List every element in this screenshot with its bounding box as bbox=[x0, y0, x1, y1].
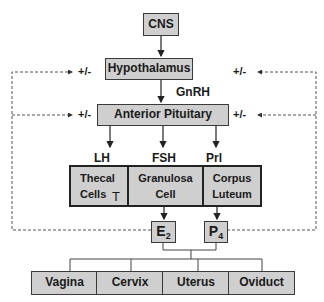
cns-label: CNS bbox=[148, 18, 173, 32]
anterior-pituitary-label: Anterior Pituitary bbox=[114, 108, 212, 122]
target-uterus-box: Uterus bbox=[162, 271, 230, 295]
granulosa-label-line1: Granulosa bbox=[138, 172, 192, 185]
lh-label: LH bbox=[94, 151, 110, 165]
target-uterus-label: Uterus bbox=[177, 276, 215, 290]
target-oviduct-box: Oviduct bbox=[228, 271, 295, 295]
target-oviduct-label: Oviduct bbox=[239, 276, 284, 290]
anterior-pituitary-box: Anterior Pituitary bbox=[97, 104, 229, 126]
feedback-label-hypothalamus-left: +/- bbox=[78, 65, 91, 77]
cns-box: CNS bbox=[143, 13, 179, 36]
fsh-label: FSH bbox=[152, 151, 176, 165]
e2-label: E2 bbox=[156, 223, 170, 241]
corpus-label-line2: Luteum bbox=[212, 188, 252, 201]
target-cervix-label: Cervix bbox=[112, 276, 149, 290]
hypothalamus-label: Hypothalamus bbox=[108, 62, 191, 76]
target-vagina-box: Vagina bbox=[31, 271, 98, 295]
p4-label: P4 bbox=[209, 223, 223, 241]
granulosa-cell-box: Granulosa Cell bbox=[127, 165, 204, 207]
estradiol-box: E2 bbox=[151, 221, 176, 243]
prl-label: Prl bbox=[206, 151, 222, 165]
feedback-label-pituitary-left: +/- bbox=[78, 108, 91, 120]
hypothalamus-box: Hypothalamus bbox=[105, 58, 193, 80]
corpus-luteum-box: Corpus Luteum bbox=[202, 165, 262, 207]
testosterone-label: T bbox=[112, 189, 120, 204]
target-cervix-box: Cervix bbox=[96, 271, 164, 295]
feedback-label-pituitary-right: +/- bbox=[233, 108, 246, 120]
granulosa-label-line2: Cell bbox=[155, 188, 175, 201]
target-vagina-label: Vagina bbox=[45, 276, 84, 290]
thecal-label-line2: Cells bbox=[80, 188, 106, 201]
corpus-label-line1: Corpus bbox=[213, 172, 252, 185]
thecal-cells-box: Thecal Cells bbox=[69, 165, 129, 207]
gnrh-label: GnRH bbox=[176, 85, 210, 99]
progesterone-box: P4 bbox=[204, 221, 228, 243]
feedback-label-hypothalamus-right: +/- bbox=[233, 65, 246, 77]
thecal-label-line1: Thecal bbox=[80, 172, 115, 185]
